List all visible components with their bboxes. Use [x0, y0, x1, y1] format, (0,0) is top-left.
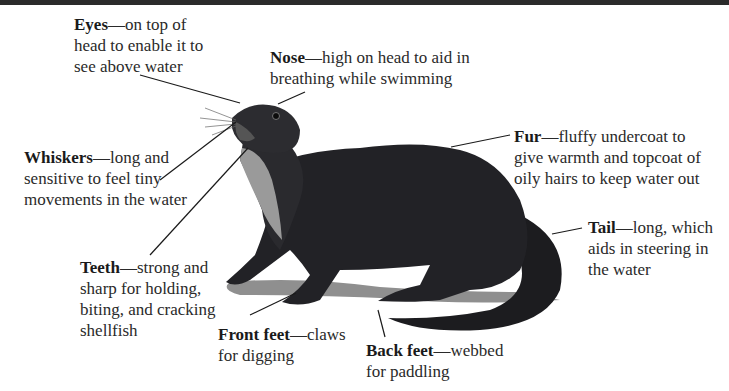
label-tail: Tail—long, which aids in steering in the…: [588, 217, 729, 280]
label-back-feet: Back feet—webbed for paddling: [366, 340, 546, 382]
whiskers-strands: [200, 108, 236, 135]
label-back-feet-term: Back feet: [366, 341, 434, 360]
label-whiskers-term: Whiskers: [24, 148, 93, 167]
label-eyes-term: Eyes: [74, 15, 108, 34]
label-whiskers: Whiskers—long and sensitive to feel tiny…: [24, 147, 224, 210]
otter-eye: [273, 113, 280, 120]
label-fur-term: Fur: [514, 127, 541, 146]
label-fur: Fur—fluffy undercoat to give warmth and …: [514, 126, 729, 189]
label-teeth-term: Teeth: [80, 258, 120, 277]
label-nose-term: Nose: [270, 48, 305, 67]
label-nose: Nose—high on head to aid in breathing wh…: [270, 47, 510, 89]
label-eyes: Eyes—on top of head to enable it to see …: [74, 14, 244, 77]
label-front-feet: Front feet—claws for digging: [218, 324, 368, 366]
label-front-feet-term: Front feet: [218, 325, 290, 344]
label-tail-term: Tail: [588, 218, 616, 237]
